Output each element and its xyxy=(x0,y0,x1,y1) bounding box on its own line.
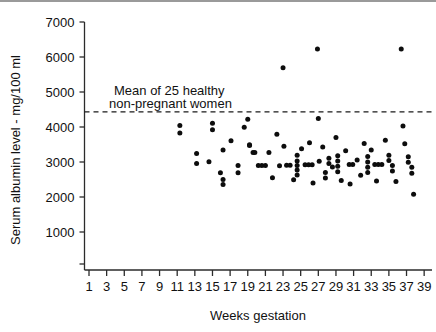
data-point xyxy=(330,164,335,169)
y-tick-label: 3000 xyxy=(46,155,75,170)
x-tick-label: 13 xyxy=(188,279,202,294)
x-tick-label: 27 xyxy=(311,279,325,294)
data-point xyxy=(402,141,407,146)
data-point xyxy=(358,173,363,178)
data-point xyxy=(295,168,300,173)
data-point xyxy=(365,165,370,170)
data-point xyxy=(194,151,199,156)
data-point xyxy=(281,65,286,70)
y-axis-title: Serum albumin level - mg/100 ml xyxy=(8,55,23,245)
x-tick-label: 1 xyxy=(85,279,92,294)
data-point xyxy=(365,170,370,175)
data-point xyxy=(379,162,384,167)
data-point xyxy=(350,162,355,167)
y-axis-ticks: 1000200030004000500060007000 xyxy=(46,15,85,264)
data-point xyxy=(406,160,411,165)
data-point xyxy=(335,164,340,169)
data-point xyxy=(374,178,379,183)
data-point xyxy=(291,177,296,182)
data-points xyxy=(177,46,416,196)
data-point xyxy=(295,153,300,158)
data-point xyxy=(409,171,414,176)
data-point xyxy=(277,163,282,168)
data-point xyxy=(339,178,344,183)
data-point xyxy=(177,130,182,135)
data-point xyxy=(399,46,404,51)
data-point xyxy=(194,161,199,166)
data-point xyxy=(386,153,391,158)
data-point xyxy=(221,177,226,182)
figure-container: 1000200030004000500060007000 13579111315… xyxy=(0,0,436,332)
x-tick-label: 5 xyxy=(121,279,128,294)
data-point xyxy=(365,154,370,159)
y-tick-label: 1000 xyxy=(46,225,75,240)
data-point xyxy=(274,132,279,137)
data-point xyxy=(365,160,370,165)
y-tick-label: 7000 xyxy=(46,15,75,30)
data-point xyxy=(335,158,340,163)
data-point xyxy=(323,170,328,175)
data-point xyxy=(263,163,268,168)
data-point xyxy=(323,176,328,181)
data-point xyxy=(311,181,316,186)
x-axis-ticks: 13579111315171921232527293133353739 xyxy=(85,270,431,294)
data-point xyxy=(210,127,215,132)
data-point xyxy=(333,135,338,140)
x-axis-title: Weeks gestation xyxy=(210,308,306,323)
data-point xyxy=(317,159,322,164)
data-point xyxy=(315,46,320,51)
x-tick-label: 21 xyxy=(258,279,272,294)
data-point xyxy=(245,117,250,122)
data-point xyxy=(299,146,304,151)
data-point xyxy=(320,144,325,149)
y-tick-label: 2000 xyxy=(46,190,75,205)
data-point xyxy=(295,158,300,163)
x-tick-label: 25 xyxy=(293,279,307,294)
x-tick-label: 19 xyxy=(241,279,255,294)
data-point xyxy=(236,163,241,168)
data-point xyxy=(221,148,226,153)
data-point xyxy=(229,138,234,143)
data-point xyxy=(281,144,286,149)
data-point xyxy=(206,159,211,164)
data-point xyxy=(335,169,340,174)
x-tick-label: 9 xyxy=(156,279,163,294)
data-point xyxy=(177,123,182,128)
y-tick-label: 6000 xyxy=(46,50,75,65)
data-point xyxy=(393,179,398,184)
data-point xyxy=(236,170,241,175)
data-point xyxy=(355,157,360,162)
x-tick-label: 17 xyxy=(223,279,237,294)
y-tick-label: 5000 xyxy=(46,85,75,100)
x-tick-label: 29 xyxy=(329,279,343,294)
data-point xyxy=(310,162,315,167)
data-point xyxy=(411,192,416,197)
x-tick-label: 37 xyxy=(399,279,413,294)
data-point xyxy=(218,170,223,175)
data-point xyxy=(326,156,331,161)
data-point xyxy=(362,141,367,146)
x-tick-label: 7 xyxy=(138,279,145,294)
data-point xyxy=(316,116,321,121)
data-point xyxy=(266,150,271,155)
x-tick-label: 23 xyxy=(276,279,290,294)
data-point xyxy=(406,154,411,159)
data-point xyxy=(386,158,391,163)
data-point xyxy=(252,150,257,155)
data-point xyxy=(295,172,300,177)
data-point xyxy=(242,125,247,130)
data-point xyxy=(390,169,395,174)
data-point xyxy=(343,148,348,153)
scatter-plot: 1000200030004000500060007000 13579111315… xyxy=(0,0,436,332)
x-tick-label: 11 xyxy=(170,279,184,294)
y-tick-label: 4000 xyxy=(46,120,75,135)
mean-annotation-line-2: non-pregnant women xyxy=(109,96,232,111)
data-point xyxy=(369,148,374,153)
data-point xyxy=(383,138,388,143)
data-point xyxy=(247,143,252,148)
x-tick-label: 35 xyxy=(382,279,396,294)
data-point xyxy=(335,153,340,158)
data-point xyxy=(221,182,226,187)
data-point xyxy=(288,163,293,168)
axes xyxy=(85,22,433,270)
